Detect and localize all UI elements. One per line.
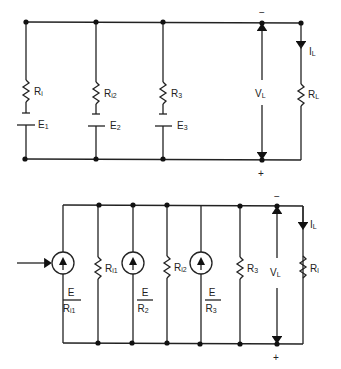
fraction-denominator: R3	[205, 303, 216, 314]
resistor-ri2: Ri2	[164, 205, 187, 343]
current-label: IL	[310, 219, 317, 230]
fraction-denominator: R2	[137, 303, 148, 314]
voltage-label: VL	[270, 267, 281, 278]
arrow-up-icon	[197, 257, 205, 265]
resistor-label: Ri2	[174, 262, 187, 273]
plus-sign: +	[273, 352, 279, 363]
arrow-up-icon	[59, 257, 67, 265]
voltage-label: VL	[255, 88, 266, 99]
fraction-numerator: E	[209, 287, 216, 298]
resistor-icon	[298, 84, 304, 106]
circuit-diagram: Ri E1 Ri2 E2 R3 E3	[0, 0, 341, 369]
minus-sign: −	[274, 191, 280, 202]
resistor-icon	[237, 257, 243, 279]
voltage-indicator: VL − +	[255, 7, 266, 179]
plus-sign: +	[258, 168, 264, 179]
branch-2: Ri2 E2	[88, 22, 121, 159]
branch-1: Ri E1	[17, 22, 49, 159]
resistor-icon	[95, 257, 101, 279]
fraction-denominator: Ri1	[63, 303, 76, 314]
resistor-icon	[23, 80, 29, 102]
source-label: E1	[38, 119, 49, 130]
fraction-numerator: E	[142, 287, 149, 298]
resistor-icon	[93, 82, 99, 104]
bottom-circuit: E Ri1 Ri1 E R2 Ri2	[17, 191, 319, 363]
minus-sign: −	[259, 7, 265, 18]
source-label: E3	[177, 120, 188, 131]
resistor-icon	[160, 82, 166, 104]
load-resistor-label: Rl	[310, 263, 319, 274]
fraction-numerator: E	[68, 287, 75, 298]
current-source-1: E Ri1	[52, 205, 81, 343]
load-branch: IL RL	[298, 23, 319, 160]
top-circuit: Ri E1 Ri2 E2 R3 E3	[17, 7, 319, 179]
current-source-3: E R3	[190, 205, 221, 343]
load-resistor-label: RL	[308, 89, 319, 100]
branch-3: R3 E3	[155, 22, 188, 159]
arrow-up-icon	[129, 257, 137, 265]
resistor-label: Ri1	[105, 263, 118, 274]
current-source-2: E R2	[122, 205, 153, 343]
source-label: E2	[110, 120, 121, 131]
resistor-label: Ri	[34, 86, 43, 97]
resistor-r3: R3	[237, 205, 258, 344]
current-label: IL	[309, 46, 316, 57]
resistor-ri1: Ri1	[95, 205, 118, 343]
voltage-indicator: VL − +	[270, 191, 281, 363]
resistor-icon	[164, 256, 170, 278]
resistor-label: Ri2	[104, 88, 117, 99]
resistor-label: R3	[247, 263, 258, 274]
nodes	[95, 202, 279, 346]
resistor-label: R3	[171, 88, 182, 99]
